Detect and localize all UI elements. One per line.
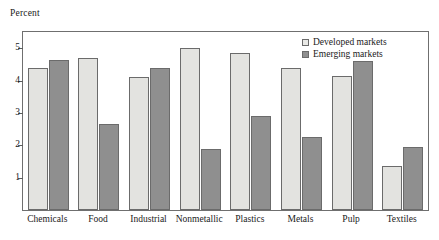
bar-developed (129, 77, 149, 210)
y-tick-label: 3 (15, 108, 20, 118)
bar-emerging (302, 137, 322, 210)
x-axis-label: Textiles (387, 215, 417, 225)
legend-label: Developed markets (313, 36, 387, 48)
x-axis-label: Food (88, 215, 108, 225)
y-tick-label: 2 (15, 141, 20, 151)
bar-developed (28, 68, 48, 210)
bar-developed (281, 68, 301, 210)
legend-item: Emerging markets (302, 48, 387, 60)
legend-item: Developed markets (302, 36, 387, 48)
bar-chart-figure: Percent 12345 ChemicalsFoodIndustrialNon… (0, 0, 439, 240)
x-axis-label: Chemicals (27, 215, 67, 225)
bar-emerging (99, 124, 119, 210)
x-axis-label: Nonmetallic (176, 215, 223, 225)
bar-emerging (353, 61, 373, 210)
bar-developed (180, 48, 200, 210)
bar-emerging (201, 149, 221, 210)
bar-developed (332, 76, 352, 210)
legend-label: Emerging markets (313, 48, 383, 60)
y-axis-title: Percent (10, 8, 40, 18)
y-tick-label: 5 (15, 43, 20, 53)
x-axis-label: Metals (288, 215, 314, 225)
bar-developed (78, 58, 98, 210)
bar-group (78, 32, 119, 210)
y-tick-label: 1 (15, 173, 20, 183)
bar-group (382, 32, 423, 210)
bar-emerging (49, 60, 69, 210)
bar-developed (382, 166, 402, 210)
bar-emerging (150, 68, 170, 210)
bar-group (129, 32, 170, 210)
bar-group (28, 32, 69, 210)
legend-swatch-icon (302, 51, 309, 58)
x-axis-label: Plastics (235, 215, 264, 225)
bar-developed (230, 53, 250, 210)
bar-emerging (403, 147, 423, 210)
legend-swatch-icon (302, 39, 309, 46)
x-axis-label: Industrial (130, 215, 166, 225)
bar-group (230, 32, 271, 210)
bar-emerging (251, 116, 271, 210)
x-axis-label: Pulp (342, 215, 359, 225)
chart-legend: Developed marketsEmerging markets (302, 36, 387, 60)
bar-group (180, 32, 221, 210)
y-tick-label: 4 (15, 76, 20, 86)
